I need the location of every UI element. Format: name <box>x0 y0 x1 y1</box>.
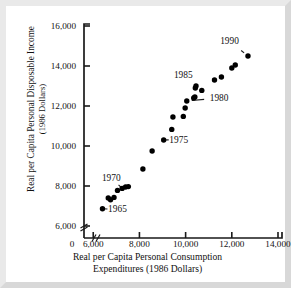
x-axis-title: Real per Capita Personal Consumption Exp… <box>20 251 275 274</box>
x-tick-label-12,000: 12,000 <box>219 239 244 249</box>
x-axis-title-line1: Real per Capita Personal Consumption <box>20 251 275 263</box>
x-tick-label-10,000: 10,000 <box>173 239 198 249</box>
y-tick-label-16,000: 16,000 <box>32 21 76 31</box>
x-axis-line <box>84 232 282 238</box>
data-point-1975 <box>161 137 166 142</box>
y-tick-label-6,000: 6,000 <box>32 221 76 231</box>
data-point-1986 <box>212 77 217 82</box>
data-point-1990 <box>245 53 250 58</box>
x-tick-label-origin: 0 <box>70 239 75 249</box>
data-point-1968 <box>111 195 116 200</box>
data-point-1985 <box>199 88 204 93</box>
figure-frame: Real per Capita Personal Disposable Inco… <box>0 0 291 288</box>
annotation-leader-1990 <box>241 50 244 52</box>
y-axis-line <box>84 24 90 238</box>
data-point-1979 <box>182 105 187 110</box>
data-point-1987 <box>219 74 224 79</box>
y-tick-label-10,000: 10,000 <box>32 141 76 151</box>
y-tick-label-8,000: 8,000 <box>32 181 76 191</box>
annotation-label-1985: 1985 <box>174 70 193 80</box>
x-tick-label-14,000: 14,000 <box>265 239 290 249</box>
annotation-label-1990: 1990 <box>220 36 239 46</box>
data-point-1978 <box>181 114 186 119</box>
data-point-1984 <box>193 83 198 88</box>
annotation-label-1970: 1970 <box>102 173 121 183</box>
data-point-1976 <box>169 127 174 132</box>
annotation-label-1975: 1975 <box>169 135 188 145</box>
data-point-1977 <box>170 114 175 119</box>
data-point-1973 <box>140 166 145 171</box>
plot-canvas: Real per Capita Personal Disposable Inco… <box>6 6 285 282</box>
data-point-1980 <box>184 98 189 103</box>
x-tick-label-8,000: 8,000 <box>129 239 150 249</box>
annotation-label-1980: 1980 <box>210 93 229 103</box>
y-tick-label-14,000: 14,000 <box>32 61 76 71</box>
data-point-1969 <box>115 188 120 193</box>
data-point-1982 <box>192 94 197 99</box>
data-point-1965 <box>100 206 105 211</box>
x-tick-label-6,000: 6,000 <box>83 239 104 249</box>
data-point-1974 <box>149 148 154 153</box>
data-point-1972 <box>126 184 131 189</box>
data-point-1989 <box>233 62 238 67</box>
y-tick-label-12,000: 12,000 <box>32 101 76 111</box>
x-axis-title-line2: Expenditures (1986 Dollars) <box>20 263 275 275</box>
annotation-label-1965: 1965 <box>108 204 127 214</box>
